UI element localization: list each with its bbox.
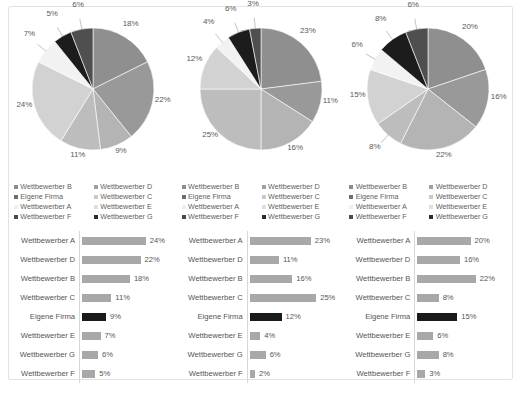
bar-track: 5% bbox=[79, 364, 171, 383]
legend-item[interactable]: Wettbewerber F bbox=[14, 212, 92, 221]
bar-fill bbox=[417, 294, 438, 302]
legend-item-label: Wettbewerber B bbox=[20, 182, 71, 191]
pie-leader-line bbox=[387, 31, 393, 40]
bar-track: 24% bbox=[79, 231, 171, 250]
bar-value-label: 12% bbox=[286, 312, 301, 321]
legend-swatch-icon bbox=[94, 185, 98, 189]
bar-category-label: Wettbewerber G bbox=[13, 350, 79, 359]
legend-item[interactable]: Wettbewerber C bbox=[94, 192, 172, 201]
bar-row[interactable]: Wettbewerber E4% bbox=[181, 326, 339, 345]
legend-item[interactable]: Wettbewerber F bbox=[182, 212, 260, 221]
legend-item[interactable]: Wettbewerber B bbox=[182, 182, 260, 191]
bar-row[interactable]: Wettbewerber D16% bbox=[348, 250, 506, 269]
bar-row[interactable]: Wettbewerber G6% bbox=[13, 345, 171, 364]
bar-category-label: Eigene Firma bbox=[13, 312, 79, 321]
pie-svg-3 bbox=[344, 7, 512, 179]
legend-item[interactable]: Wettbewerber G bbox=[94, 212, 172, 221]
legend-item[interactable]: Wettbewerber E bbox=[429, 202, 507, 211]
bar-row[interactable]: Wettbewerber E7% bbox=[13, 326, 171, 345]
bar-row[interactable]: Wettbewerber A20% bbox=[348, 231, 506, 250]
legend-swatch-icon bbox=[262, 215, 266, 219]
legend-swatch-icon bbox=[94, 205, 98, 209]
bar-track: 25% bbox=[247, 288, 339, 307]
bar-row[interactable]: Wettbewerber F3% bbox=[348, 364, 506, 383]
legend-item[interactable]: Eigene Firma bbox=[349, 192, 427, 201]
bar-value-label: 2% bbox=[259, 369, 270, 378]
pie-slice-label: 25% bbox=[202, 130, 218, 139]
legend-item[interactable]: Wettbewerber G bbox=[429, 212, 507, 221]
bar-track: 20% bbox=[414, 231, 506, 250]
legend-item[interactable]: Wettbewerber D bbox=[262, 182, 340, 191]
legend-item[interactable]: Wettbewerber A bbox=[349, 202, 427, 211]
legend-item[interactable]: Wettbewerber A bbox=[182, 202, 260, 211]
legend-swatch-icon bbox=[14, 215, 18, 219]
bar-row[interactable]: Wettbewerber D22% bbox=[13, 250, 171, 269]
bar-row[interactable]: Wettbewerber F2% bbox=[181, 364, 339, 383]
panel-3: 20%16%22%8%15%6%8%6% Wettbewerber BEigen… bbox=[344, 7, 512, 385]
pie-leader-line bbox=[415, 19, 417, 30]
legend-item[interactable]: Wettbewerber C bbox=[429, 192, 507, 201]
bar-row[interactable]: Wettbewerber D11% bbox=[181, 250, 339, 269]
bar-value-label: 7% bbox=[105, 331, 116, 340]
bar-row[interactable]: Wettbewerber E6% bbox=[348, 326, 506, 345]
bar-value-label: 15% bbox=[461, 312, 476, 321]
legend-item[interactable]: Wettbewerber G bbox=[262, 212, 340, 221]
bar-row[interactable]: Wettbewerber B16% bbox=[181, 269, 339, 288]
bar-row[interactable]: Eigene Firma15% bbox=[348, 307, 506, 326]
bar-row[interactable]: Wettbewerber G6% bbox=[181, 345, 339, 364]
legend-item[interactable]: Wettbewerber C bbox=[262, 192, 340, 201]
bar-category-label: Eigene Firma bbox=[181, 312, 247, 321]
legend-item-label: Wettbewerber D bbox=[436, 182, 488, 191]
pie-slice-label: 24% bbox=[16, 99, 32, 108]
bar-fill-highlight bbox=[82, 313, 106, 321]
bar-track: 7% bbox=[79, 326, 171, 345]
bar-row[interactable]: Eigene Firma12% bbox=[181, 307, 339, 326]
legend-item-label: Wettbewerber E bbox=[436, 202, 487, 211]
pie-leader-line bbox=[80, 19, 82, 30]
legend-item[interactable]: Wettbewerber A bbox=[14, 202, 92, 211]
bar-category-label: Wettbewerber C bbox=[181, 293, 247, 302]
legend-item[interactable]: Eigene Firma bbox=[14, 192, 92, 201]
bar-row[interactable]: Wettbewerber B18% bbox=[13, 269, 171, 288]
legend-item-label: Eigene Firma bbox=[356, 192, 399, 201]
pie-leader-line bbox=[57, 27, 62, 37]
bar-row[interactable]: Wettbewerber B22% bbox=[348, 269, 506, 288]
bar-fill bbox=[82, 237, 146, 245]
legend-item[interactable]: Wettbewerber E bbox=[94, 202, 172, 211]
legend-item[interactable]: Wettbewerber B bbox=[14, 182, 92, 191]
bar-row[interactable]: Wettbewerber F5% bbox=[13, 364, 171, 383]
legend-item[interactable]: Wettbewerber B bbox=[349, 182, 427, 191]
legend-swatch-icon bbox=[349, 195, 353, 199]
legend-item[interactable]: Wettbewerber D bbox=[94, 182, 172, 191]
legend-item[interactable]: Eigene Firma bbox=[182, 192, 260, 201]
legend-1: Wettbewerber BEigene FirmaWettbewerber A… bbox=[14, 179, 172, 227]
legend-item-label: Wettbewerber C bbox=[268, 192, 320, 201]
panel-1: 18%22%9%11%24%7%5%6% Wettbewerber BEigen… bbox=[9, 7, 177, 385]
legend-item-label: Wettbewerber E bbox=[268, 202, 319, 211]
bar-track: 3% bbox=[414, 364, 506, 383]
bar-row[interactable]: Wettbewerber C11% bbox=[13, 288, 171, 307]
legend-item[interactable]: Wettbewerber F bbox=[349, 212, 427, 221]
bar-fill bbox=[250, 237, 311, 245]
bar-row[interactable]: Wettbewerber C8% bbox=[348, 288, 506, 307]
legend-item-label: Wettbewerber D bbox=[268, 182, 320, 191]
bar-track: 11% bbox=[79, 288, 171, 307]
bar-row[interactable]: Wettbewerber A23% bbox=[181, 231, 339, 250]
legend-swatch-icon bbox=[262, 185, 266, 189]
bar-track: 8% bbox=[414, 288, 506, 307]
legend-swatch-icon bbox=[94, 195, 98, 199]
bar-row[interactable]: Wettbewerber A24% bbox=[13, 231, 171, 250]
legend-item[interactable]: Wettbewerber E bbox=[262, 202, 340, 211]
legend-item-label: Eigene Firma bbox=[188, 192, 231, 201]
bar-category-label: Wettbewerber A bbox=[181, 236, 247, 245]
pie-chart-2: 23%11%16%25%12%4%6%3% bbox=[177, 7, 345, 179]
bar-category-label: Wettbewerber D bbox=[348, 255, 414, 264]
legend-swatch-icon bbox=[14, 185, 18, 189]
bar-row[interactable]: Wettbewerber G8% bbox=[348, 345, 506, 364]
bar-track: 23% bbox=[247, 231, 339, 250]
pie-slice-label: 6% bbox=[72, 0, 83, 8]
legend-item[interactable]: Wettbewerber D bbox=[429, 182, 507, 191]
bar-row[interactable]: Eigene Firma9% bbox=[13, 307, 171, 326]
bar-row[interactable]: Wettbewerber C25% bbox=[181, 288, 339, 307]
bar-track: 11% bbox=[247, 250, 339, 269]
